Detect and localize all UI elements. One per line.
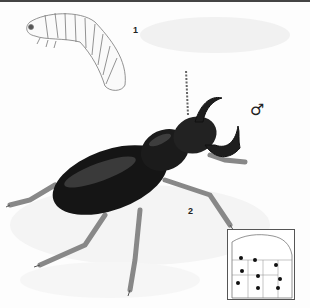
range-map-drawing	[228, 230, 294, 299]
figure-number-2: 2	[188, 206, 193, 216]
illustration-plate: 1 2 ♂	[0, 0, 310, 308]
male-symbol: ♂	[250, 100, 264, 119]
antenna	[186, 70, 188, 115]
figure-number-1: 1	[133, 25, 138, 35]
range-map	[227, 229, 295, 300]
larva-drawing	[27, 13, 126, 90]
